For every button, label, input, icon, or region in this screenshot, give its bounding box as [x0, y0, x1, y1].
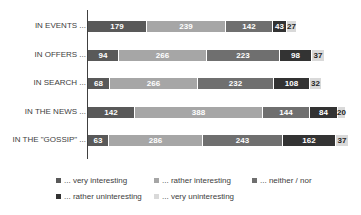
bar-segment: 43 [273, 21, 287, 32]
bar-segment: 98 [280, 50, 312, 61]
bar-segment: 144 [263, 107, 310, 118]
bar-segment: 68 [88, 78, 110, 89]
legend-item: ... neither / nor [252, 176, 352, 185]
legend-swatch-icon [56, 178, 61, 183]
bar-segment: 32 [310, 78, 321, 89]
legend-row: ... very interesting... rather interesti… [56, 172, 356, 188]
bar-segment: 37 [312, 50, 324, 61]
category-label: IN EVENTS ... [35, 21, 86, 31]
bar-row: 1423881448420 [88, 107, 345, 118]
bar-segment: 63 [88, 135, 109, 146]
legend-swatch-icon [252, 178, 257, 183]
bar-row: 1792391424327 [88, 21, 296, 32]
legend-item: ... rather uninteresting [56, 192, 154, 201]
bar-segment: 142 [88, 107, 135, 118]
bar-segment: 142 [226, 21, 273, 32]
legend-item: ... very interesting [56, 176, 154, 185]
category-label: IN SEARCH ... [34, 78, 86, 88]
legend-label: ... very interesting [64, 176, 127, 185]
bar-segment: 232 [198, 78, 274, 89]
bar-row: 6328624316237 [88, 135, 348, 146]
legend-swatch-icon [154, 194, 159, 199]
legend-label: ... very uninteresting [162, 192, 234, 201]
category-label: IN OFFERS ... [34, 50, 86, 60]
bar-segment: 84 [310, 107, 338, 118]
category-label: IN THE "GOSSIP" ... [12, 135, 86, 145]
bar-segment: 266 [119, 50, 207, 61]
bar-segment: 243 [203, 135, 283, 146]
bar-segment: 162 [283, 135, 336, 146]
bar-segment: 179 [88, 21, 147, 32]
category-label: IN THE NEWS ... [25, 107, 86, 117]
bar-segment: 108 [274, 78, 310, 89]
legend-label: ... rather uninteresting [64, 192, 142, 201]
bar-segment: 388 [135, 107, 263, 118]
bar-segment: 27 [287, 21, 296, 32]
bar-segment: 94 [88, 50, 119, 61]
legend: ... very interesting... rather interesti… [56, 172, 356, 204]
bar-row: 6826623210832 [88, 78, 321, 89]
legend-label: ... rather interesting [162, 176, 231, 185]
bar-segment: 239 [147, 21, 226, 32]
legend-label: ... neither / nor [260, 176, 312, 185]
stacked-bar-chart: IN EVENTS ...IN OFFERS ...IN SEARCH ...I… [0, 0, 361, 215]
bar-row: 942662239837 [88, 50, 324, 61]
legend-swatch-icon [154, 178, 159, 183]
bar-segment: 20 [338, 107, 345, 118]
bar-segment: 286 [109, 135, 203, 146]
bar-segment: 37 [336, 135, 348, 146]
legend-swatch-icon [56, 194, 61, 199]
legend-item: ... very uninteresting [154, 192, 264, 201]
legend-row: ... rather uninteresting... very uninter… [56, 188, 356, 204]
bar-segment: 223 [207, 50, 280, 61]
legend-item: ... rather interesting [154, 176, 252, 185]
bar-segment: 266 [110, 78, 198, 89]
